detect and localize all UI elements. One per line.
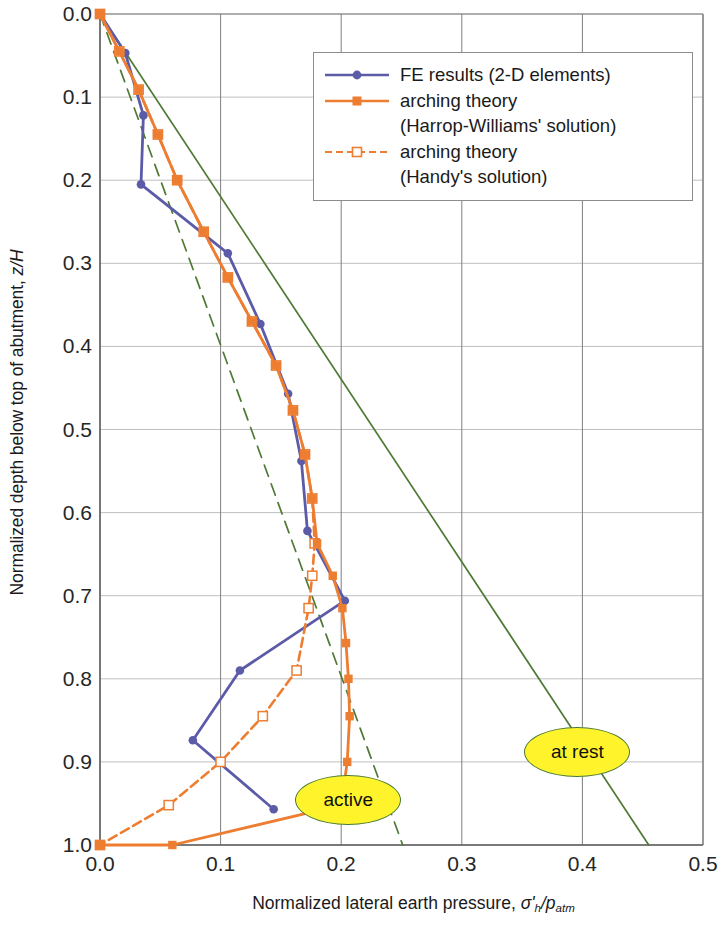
legend-key-harrop-williams [324,90,390,112]
legend-key-handy [324,141,390,163]
y-tick-label: 0.0 [32,2,92,26]
data-point [329,572,337,580]
data-point [258,712,267,721]
chart-figure: Normalized depth below top of abutment, … [0,0,727,930]
data-point [224,249,233,258]
y-axis-title-text: Normalized depth below top of abutment, [8,276,28,596]
data-point [313,539,321,547]
y-tick-labels: 0.00.10.20.30.40.50.60.70.80.91.0 [30,0,92,845]
data-point [304,604,313,613]
x-tick-label: 0.0 [65,852,135,876]
x-tick-label: 0.4 [547,852,617,876]
data-point [134,85,142,93]
y-tick-label: 0.9 [32,750,92,774]
legend-label-harrop-williams: arching theory (Harrop-Williams' solutio… [400,88,616,138]
data-point [248,317,256,325]
data-point [292,666,301,675]
data-point [173,176,181,184]
legend-key-fe-results [324,64,390,86]
x-axis-title-text: Normalized lateral earth pressure, [252,893,520,913]
data-point [224,273,232,281]
x-tick-label: 0.3 [427,852,497,876]
x-tick-label: 0.5 [668,852,727,876]
annotation-at-rest: at rest [524,727,630,777]
data-point [272,361,280,369]
data-point [256,320,265,329]
data-point [342,639,350,647]
data-point [115,47,123,55]
x-axis-title-sigma: σ' [521,893,535,913]
y-axis-title-symbol: z/H [8,250,28,276]
y-tick-label: 0.1 [32,85,92,109]
data-point [301,450,309,458]
data-point [269,805,278,814]
data-point [236,666,245,675]
data-point [289,406,297,414]
data-point [338,604,346,612]
legend-item: arching theory (Handy's solution) [324,139,682,189]
x-axis-title-sub-atm: atm [556,902,575,914]
data-point [344,675,352,683]
data-point [303,527,312,536]
y-tick-label: 0.8 [32,667,92,691]
data-point [345,712,353,720]
series-line-fe-results-2-d-elements- [100,14,345,809]
data-point [343,758,351,766]
legend-label-handy: arching theory (Handy's solution) [400,139,548,189]
y-tick-label: 0.7 [32,584,92,608]
data-point [308,494,316,502]
x-axis-title-slash-p: /p [541,893,556,913]
data-point [154,130,162,138]
data-point [139,111,148,120]
x-axis-title: Normalized lateral earth pressure, σ'h/p… [100,893,727,914]
legend-item: arching theory (Harrop-Williams' solutio… [324,88,682,138]
y-tick-label: 0.3 [32,251,92,275]
legend-item: FE results (2-D elements) [324,62,682,87]
x-tick-label: 0.1 [186,852,256,876]
data-point [189,736,198,745]
y-tick-label: 0.5 [32,418,92,442]
y-tick-label: 0.6 [32,501,92,525]
x-tick-label: 0.2 [306,852,376,876]
data-point [200,228,208,236]
legend: FE results (2-D elements) arching theory… [313,52,693,201]
data-point [164,801,173,810]
legend-label-fe-results: FE results (2-D elements) [400,62,611,87]
data-point [308,571,317,580]
data-point [96,841,104,849]
data-point [216,757,225,766]
y-tick-label: 0.4 [32,334,92,358]
data-point [137,180,146,189]
y-tick-label: 0.2 [32,168,92,192]
data-point [96,10,104,18]
data-point [168,841,176,849]
